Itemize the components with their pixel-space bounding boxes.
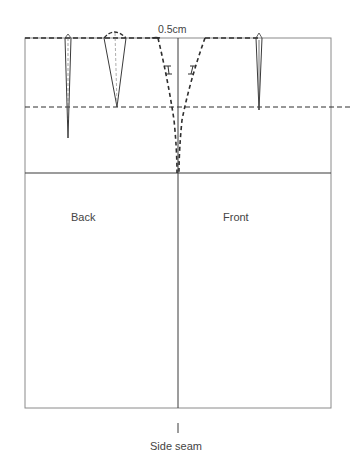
back-label: Back bbox=[71, 212, 95, 223]
side-seam-label: Side seam bbox=[150, 441, 202, 452]
side-seam-shaping-back bbox=[158, 38, 177, 173]
front-label: Front bbox=[223, 212, 249, 223]
waist-curve-back bbox=[152, 38, 160, 39]
front-dart bbox=[256, 33, 262, 110]
side-seam-shaping-front bbox=[179, 38, 205, 173]
skirt-pattern-diagram bbox=[0, 0, 350, 458]
back-dart-1 bbox=[65, 34, 71, 138]
back-dart-2 bbox=[104, 32, 126, 107]
measurement-label: 0.5cm bbox=[158, 24, 187, 35]
